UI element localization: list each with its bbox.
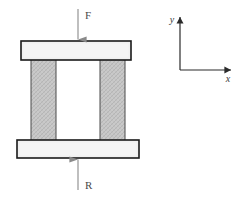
top-plate-group: [21, 41, 131, 60]
column-group: [31, 59, 125, 141]
applied-force-label: F: [85, 9, 91, 21]
diagram-svg: F R y x: [0, 0, 245, 197]
figure-canvas: F R y x: [0, 0, 245, 197]
y-axis-label: y: [169, 14, 175, 25]
coordinate-axes-group: y x: [169, 14, 231, 84]
bottom-plate-group: [17, 140, 139, 158]
reaction-force-group: R: [78, 160, 93, 192]
bottom-plate-inner-highlight: [20, 143, 137, 156]
top-plate-inner-highlight: [24, 44, 129, 58]
reaction-force-label: R: [85, 179, 93, 191]
right-column: [100, 59, 125, 141]
left-column: [31, 59, 56, 141]
applied-force-group: F: [78, 9, 91, 40]
x-axis-label: x: [225, 73, 231, 84]
